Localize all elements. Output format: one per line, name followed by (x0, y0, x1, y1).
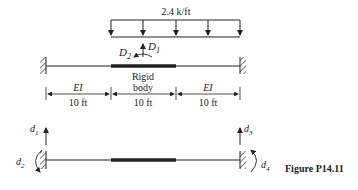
svg-text:d3: d3 (244, 123, 253, 137)
segment-1-label: EI (72, 82, 83, 93)
fixed-support-right-icon (240, 57, 246, 74)
structure-diagram: 2.4 k/ft D1 D2 EI Rigid body EI (0, 0, 358, 190)
svg-text:10 ft: 10 ft (69, 97, 88, 108)
distributed-load: 2.4 k/ft (111, 6, 240, 37)
svg-text:d1: d1 (30, 123, 39, 137)
figure-caption: Figure P14.11 (285, 163, 344, 174)
svg-text:D1: D1 (147, 40, 160, 55)
fixed-support-left-icon (40, 151, 46, 169)
segment-2-label2: body (133, 82, 153, 93)
bottom-dofs: d1 d2 d3 d4 (16, 123, 270, 173)
svg-text:D2: D2 (118, 46, 131, 61)
segment-3-label: EI (202, 82, 213, 93)
fixed-support-right-icon (240, 151, 246, 169)
svg-text:d2: d2 (16, 156, 25, 170)
bottom-beam (40, 151, 246, 169)
fixed-support-left-icon (40, 57, 46, 74)
load-label: 2.4 k/ft (162, 6, 191, 17)
svg-text:10 ft: 10 ft (199, 97, 218, 108)
svg-text:10 ft: 10 ft (134, 97, 153, 108)
d4-rotation-icon (251, 150, 257, 172)
svg-text:d4: d4 (261, 159, 270, 173)
top-dofs: D1 D2 (118, 40, 160, 61)
segment-2-label: Rigid (132, 71, 154, 82)
